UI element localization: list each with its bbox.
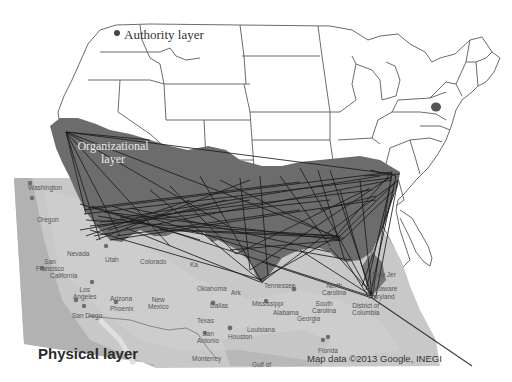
map-place-label: Dallas: [210, 302, 228, 309]
map-place-label: SanFrancisco: [36, 258, 64, 272]
map-place-label: Oregon: [37, 216, 59, 223]
map-place-label: Ark: [231, 289, 241, 296]
map-place-label: Washington: [28, 184, 62, 191]
figure-graphics: [0, 0, 512, 382]
map-place-label: Oklahoma: [197, 285, 227, 292]
map-place-label: District ofColumbia: [352, 302, 379, 316]
highlighted-state: [431, 103, 441, 112]
map-place-label: Texas: [197, 317, 214, 324]
map-place-label: Ka: [190, 261, 198, 268]
map-place-label: Maryland: [368, 293, 395, 300]
map-place-label: Mississippi: [252, 300, 283, 307]
map-place-label: Gulf of: [252, 361, 271, 368]
map-place-label: San Diego: [72, 312, 102, 319]
map-place-label: Utah: [105, 256, 119, 263]
map-place-label: Monterrey: [192, 355, 221, 362]
map-place-label: NorthCarolina: [322, 282, 346, 296]
map-place-label: Alabama: [273, 309, 299, 316]
map-place-label: Colorado: [140, 258, 166, 265]
map-place-label: Georgia: [297, 315, 320, 322]
map-place-label: Phoenix: [110, 305, 134, 312]
map-place-label: Louisiana: [247, 326, 275, 333]
map-place-label: Arizona: [110, 295, 132, 302]
map-place-label: Tennessee: [264, 282, 295, 289]
map-place-label: Delaware: [370, 285, 397, 292]
map-place-label: Nevada: [67, 250, 89, 257]
map-place-label: New Jer: [372, 271, 396, 278]
map-place-label: SanAntonio: [197, 330, 219, 344]
map-place-label: Houston: [228, 333, 252, 340]
map-place-label: NewMexico: [148, 296, 169, 310]
map-place-label: LosAngeles: [73, 286, 97, 300]
map-place-label: SouthCarolina: [312, 300, 336, 314]
map-place-label: California: [50, 272, 77, 279]
map-place-label: Florida: [318, 347, 338, 354]
layered-network-figure: Authority layer Organizational layer Phy…: [0, 0, 512, 382]
